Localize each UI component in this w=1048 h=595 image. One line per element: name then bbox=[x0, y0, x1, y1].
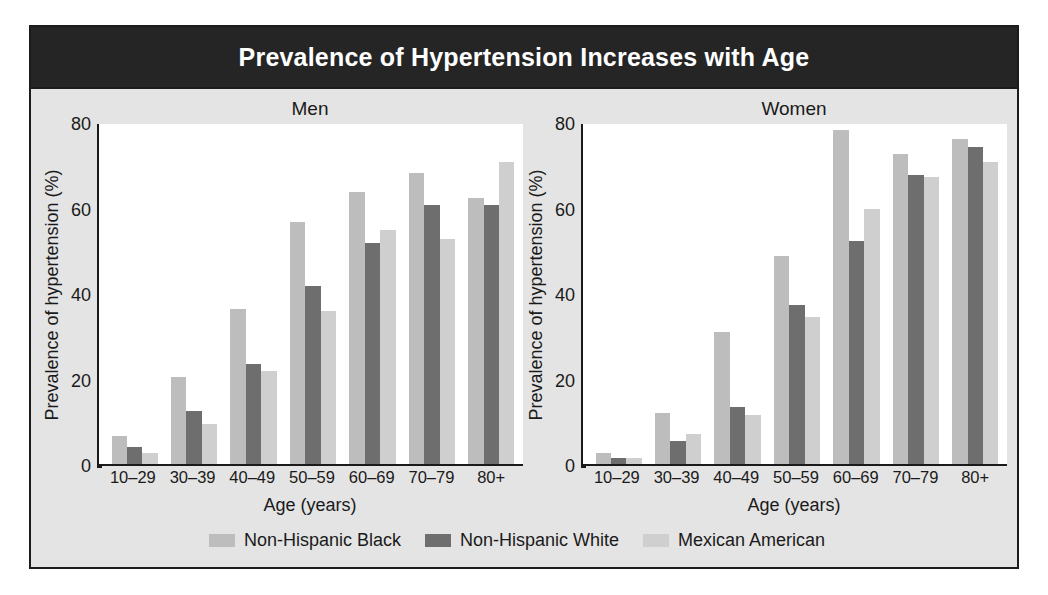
x-tick-label: 30–39 bbox=[647, 468, 707, 487]
plot-row-women: Prevalence of hypertension (%) 020406080 bbox=[523, 124, 1007, 466]
x-axis-ticks-women: 10–2930–3940–4950–5960–6970–7980+ bbox=[581, 466, 1007, 487]
x-tick-label: 70–79 bbox=[402, 468, 462, 487]
y-tick-label: 60 bbox=[555, 199, 575, 220]
bar-groups-men bbox=[99, 124, 523, 464]
bar bbox=[968, 147, 983, 464]
y-tick-label: 40 bbox=[71, 285, 91, 306]
bar-group bbox=[224, 124, 283, 464]
legend-label: Non-Hispanic White bbox=[460, 530, 619, 551]
bar bbox=[908, 175, 923, 464]
bar bbox=[424, 205, 439, 464]
bar bbox=[290, 222, 305, 464]
y-axis-label-wrap-women: Prevalence of hypertension (%) bbox=[523, 124, 549, 466]
legend-item: Mexican American bbox=[643, 530, 825, 551]
bar bbox=[730, 407, 745, 464]
panel-title-women: Women bbox=[523, 95, 1007, 124]
y-tick-mark bbox=[97, 466, 102, 468]
bar-group bbox=[946, 124, 1005, 464]
legend-label: Non-Hispanic Black bbox=[244, 530, 401, 551]
bar bbox=[142, 453, 157, 464]
x-axis-label-women: Age (years) bbox=[581, 487, 1007, 516]
bar bbox=[611, 458, 626, 464]
bar bbox=[714, 332, 729, 464]
bar-group bbox=[648, 124, 707, 464]
bar bbox=[596, 453, 611, 464]
bar-group bbox=[164, 124, 223, 464]
x-tick-label: 80+ bbox=[945, 468, 1005, 487]
bar bbox=[789, 305, 804, 464]
bar-group bbox=[462, 124, 521, 464]
bar-group bbox=[827, 124, 886, 464]
figure-frame: Prevalence of Hypertension Increases wit… bbox=[29, 25, 1019, 569]
y-tick-mark bbox=[581, 466, 586, 468]
bar-group bbox=[105, 124, 164, 464]
x-tick-label: 10–29 bbox=[103, 468, 163, 487]
bar-group bbox=[708, 124, 767, 464]
bar bbox=[745, 415, 760, 464]
bar bbox=[365, 243, 380, 464]
y-tick-label: 20 bbox=[71, 370, 91, 391]
y-tick-label: 40 bbox=[555, 285, 575, 306]
y-tick-label: 20 bbox=[555, 370, 575, 391]
bar bbox=[380, 230, 395, 464]
y-tick-label: 80 bbox=[555, 114, 575, 135]
bar-groups-women bbox=[583, 124, 1007, 464]
y-tick-label: 60 bbox=[71, 199, 91, 220]
y-axis-ticks-women: 020406080 bbox=[549, 124, 581, 466]
panel-men: Men Prevalence of hypertension (%) 02040… bbox=[39, 95, 523, 516]
figure-title: Prevalence of Hypertension Increases wit… bbox=[239, 43, 810, 72]
y-tick-label: 0 bbox=[81, 456, 91, 477]
x-axis-label-men: Age (years) bbox=[97, 487, 523, 516]
panel-women: Women Prevalence of hypertension (%) 020… bbox=[523, 95, 1007, 516]
x-tick-label: 80+ bbox=[461, 468, 521, 487]
bar bbox=[202, 424, 217, 464]
chart-legend: Non-Hispanic BlackNon-Hispanic WhiteMexi… bbox=[31, 516, 1017, 567]
bar bbox=[924, 177, 939, 464]
x-tick-label: 50–59 bbox=[282, 468, 342, 487]
bar-group bbox=[283, 124, 342, 464]
bar bbox=[468, 198, 483, 464]
y-axis-ticks-men: 020406080 bbox=[65, 124, 97, 466]
bar bbox=[499, 162, 514, 464]
bar bbox=[261, 371, 276, 465]
bar bbox=[893, 154, 908, 464]
y-tick-label: 0 bbox=[565, 456, 575, 477]
legend-item: Non-Hispanic White bbox=[425, 530, 619, 551]
bar bbox=[805, 317, 820, 464]
x-tick-label: 50–59 bbox=[766, 468, 826, 487]
bar bbox=[655, 413, 670, 464]
bar bbox=[849, 241, 864, 464]
bar bbox=[349, 192, 364, 464]
x-tick-label: 60–69 bbox=[826, 468, 886, 487]
plot-area-men bbox=[97, 124, 523, 466]
bar bbox=[952, 139, 967, 464]
bar-group bbox=[343, 124, 402, 464]
x-tick-label: 40–49 bbox=[706, 468, 766, 487]
y-axis-label-wrap-men: Prevalence of hypertension (%) bbox=[39, 124, 65, 466]
bar bbox=[864, 209, 879, 464]
bar-group bbox=[402, 124, 461, 464]
bar bbox=[305, 286, 320, 465]
plot-row-men: Prevalence of hypertension (%) 020406080 bbox=[39, 124, 523, 466]
y-tick-label: 80 bbox=[71, 114, 91, 135]
plot-area-women bbox=[581, 124, 1007, 466]
legend-item: Non-Hispanic Black bbox=[209, 530, 401, 551]
bar bbox=[626, 458, 641, 464]
bar bbox=[112, 436, 127, 464]
legend-label: Mexican American bbox=[678, 530, 825, 551]
x-tick-label: 60–69 bbox=[342, 468, 402, 487]
x-tick-label: 70–79 bbox=[886, 468, 946, 487]
bar-group bbox=[886, 124, 945, 464]
bar bbox=[686, 434, 701, 464]
x-tick-label: 40–49 bbox=[222, 468, 282, 487]
bar bbox=[186, 411, 201, 464]
bar bbox=[246, 364, 261, 464]
bar bbox=[171, 377, 186, 464]
x-axis-ticks-men: 10–2930–3940–4950–5960–6970–7980+ bbox=[97, 466, 523, 487]
y-axis-label-men: Prevalence of hypertension (%) bbox=[42, 169, 63, 420]
bar bbox=[409, 173, 424, 464]
bar bbox=[484, 205, 499, 464]
bar bbox=[321, 311, 336, 464]
panel-title-men: Men bbox=[39, 95, 523, 124]
bar bbox=[670, 441, 685, 464]
